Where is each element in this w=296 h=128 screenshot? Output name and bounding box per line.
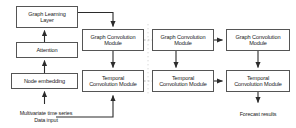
node-graph-learning-layer-label: Graph Learning Layer bbox=[17, 11, 77, 24]
node-temporal-convolution-module-3-label: Temporal Convolution Module bbox=[227, 75, 289, 88]
node-temporal-convolution-module-2-label: Temporal Convolution Module bbox=[153, 75, 213, 88]
label-data-input-text: Multivariate time series Data input bbox=[20, 110, 73, 122]
node-temporal-convolution-module-2[interactable]: Temporal Convolution Module bbox=[152, 70, 214, 92]
label-forecast-results-text: Forecast results bbox=[240, 111, 277, 117]
node-node-embedding[interactable]: Node embedding bbox=[11, 73, 78, 89]
node-attention-label: Attention bbox=[17, 47, 77, 53]
node-temporal-convolution-module-1[interactable]: Temporal Convolution Module bbox=[82, 70, 144, 92]
node-temporal-convolution-module-1-label: Temporal Convolution Module bbox=[83, 75, 143, 88]
node-attention[interactable]: Attention bbox=[16, 42, 78, 58]
diagram-canvas: Graph Learning Layer Attention Node embe… bbox=[0, 0, 296, 128]
label-data-input: Multivariate time series Data input bbox=[6, 104, 86, 123]
node-graph-learning-layer[interactable]: Graph Learning Layer bbox=[16, 6, 78, 28]
node-graph-convolution-module-2-label: Graph Convolution Module bbox=[153, 34, 213, 47]
node-graph-convolution-module-2[interactable]: Graph Convolution Module bbox=[152, 29, 214, 51]
node-node-embedding-label: Node embedding bbox=[12, 78, 77, 84]
node-temporal-convolution-module-3[interactable]: Temporal Convolution Module bbox=[226, 70, 290, 92]
node-graph-convolution-module-3[interactable]: Graph Convolution Module bbox=[226, 29, 290, 51]
node-graph-convolution-module-1[interactable]: Graph Convolution Module bbox=[82, 29, 144, 51]
edge-graph-learning-layer-to-gcm-1 bbox=[78, 13, 113, 27]
label-forecast-results: Forecast results bbox=[226, 105, 290, 118]
node-graph-convolution-module-1-label: Graph Convolution Module bbox=[83, 34, 143, 47]
node-graph-convolution-module-3-label: Graph Convolution Module bbox=[227, 34, 289, 47]
